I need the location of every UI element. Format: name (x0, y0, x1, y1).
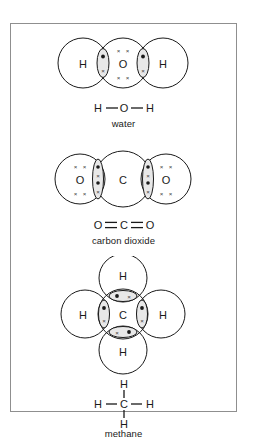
formula-atom-c: C (120, 398, 128, 410)
atom-label-hydrogen-left: H (79, 309, 87, 321)
atom-label-carbon: C (119, 309, 127, 321)
bond-electron-cross: × (96, 188, 100, 195)
bond-electron-dot (115, 294, 119, 298)
molecule-water: × × H H O × × × × H O H water (11, 30, 236, 129)
formula-atom-h-left: H (94, 102, 102, 114)
lone-pair-cross: × (116, 74, 120, 81)
bond-electron-dot (127, 330, 131, 334)
atom-label-hydrogen-bottom: H (119, 346, 127, 358)
bond-electron-dot (146, 181, 150, 185)
formula-atom-h-right: H (146, 398, 154, 410)
bond-electron-cross: × (102, 317, 106, 324)
lone-pair-cross: × (159, 190, 163, 197)
bond-electron-dot (101, 55, 105, 59)
atom-label-carbon: C (119, 174, 127, 186)
formula-atom-h-top: H (120, 378, 128, 390)
water-structural-formula: H O H (38, 98, 210, 118)
formula-atom-o-right: O (145, 219, 154, 231)
lone-pair-cross: × (82, 190, 86, 197)
methane-dot-cross-diagram: × × × × H H H H C (38, 256, 210, 376)
bond-electron-cross: × (127, 293, 131, 300)
caption-methane: methane (11, 429, 236, 439)
bond-electron-dot (141, 55, 145, 59)
formula-atom-o-left: O (93, 219, 102, 231)
atom-label-oxygen-left: O (75, 174, 84, 186)
lone-pair-cross: × (116, 47, 120, 54)
atom-label-hydrogen-right: H (159, 309, 167, 321)
bond-electron-dot (96, 165, 100, 169)
bond-region-c-h-top (109, 291, 137, 302)
bond-electron-dot (140, 306, 144, 310)
caption-water: water (11, 119, 236, 129)
lone-pair-cross: × (125, 74, 129, 81)
lone-pair-cross: × (73, 190, 77, 197)
bond-electron-cross: × (141, 67, 145, 74)
bond-electron-dot (146, 165, 150, 169)
formula-atom-c: C (120, 219, 128, 231)
lone-pair-cross: × (73, 163, 77, 170)
bond-electron-cross: × (146, 188, 150, 195)
atom-label-oxygen-right: O (161, 174, 170, 186)
atom-label-hydrogen-right: H (159, 58, 167, 70)
lone-pair-cross: × (82, 163, 86, 170)
atom-label-hydrogen-left: H (79, 58, 87, 70)
caption-carbon-dioxide: carbon dioxide (11, 236, 236, 246)
lone-pair-cross: × (159, 163, 163, 170)
formula-atom-o: O (119, 102, 128, 114)
formula-atom-h-bottom: H (120, 418, 128, 428)
molecule-methane: × × × × H H H H C H H C H (11, 256, 236, 439)
formula-atom-h-left: H (94, 398, 102, 410)
atom-label-hydrogen-top: H (119, 270, 127, 282)
figure-border: × × H H O × × × × H O H water (10, 23, 237, 412)
lone-pair-cross: × (125, 47, 129, 54)
bond-electron-cross: × (146, 172, 150, 179)
lone-pair-cross: × (168, 163, 172, 170)
methane-structural-formula: H H C H H (38, 376, 210, 428)
water-dot-cross-diagram: × × H H O × × × × (38, 30, 210, 98)
lone-pair-cross: × (168, 190, 172, 197)
atom-label-oxygen: O (118, 58, 127, 70)
bond-region-c-h-bottom (109, 327, 137, 338)
bond-electron-cross: × (101, 67, 105, 74)
molecule-carbon-dioxide: × × × × O O C × × × × × × × × O (11, 145, 236, 246)
bond-electron-dot (96, 181, 100, 185)
formula-atom-h-right: H (146, 102, 154, 114)
bond-electron-cross: × (140, 317, 144, 324)
carbon-dioxide-dot-cross-diagram: × × × × O O C × × × × × × × × (38, 145, 210, 215)
bond-electron-dot (102, 306, 106, 310)
bond-electron-cross: × (115, 329, 119, 336)
carbon-dioxide-structural-formula: O C O (38, 215, 210, 235)
bond-electron-cross: × (96, 172, 100, 179)
